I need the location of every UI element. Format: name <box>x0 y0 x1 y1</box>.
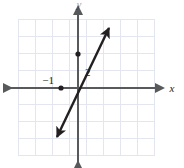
y-intercept-label: 2 <box>85 66 91 78</box>
linear-graph-figure: −1 2 x y <box>0 0 184 168</box>
plotted-line <box>57 28 109 137</box>
y-intercept-point <box>75 51 80 56</box>
x-intercept-label: −1 <box>42 74 54 86</box>
x-intercept-point <box>58 85 63 90</box>
y-axis-label: y <box>76 0 82 10</box>
coordinate-plane-svg: −1 2 x y <box>0 0 184 168</box>
plotted-line-group <box>57 28 109 137</box>
x-axis-label: x <box>169 82 175 94</box>
